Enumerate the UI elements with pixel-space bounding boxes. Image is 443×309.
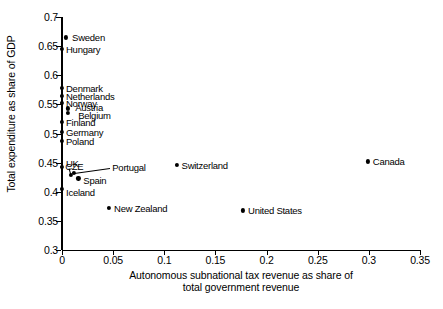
x-tick-labels: 00.050.10.150.20.250.30.35 xyxy=(0,254,443,270)
y-tick-label: 0.55 xyxy=(38,98,58,110)
data-point-label: Poland xyxy=(66,136,94,147)
x-tick-label: 0.3 xyxy=(362,254,376,266)
data-point-label: Spain xyxy=(83,175,106,186)
y-tick-label: 0.65 xyxy=(38,40,58,52)
y-tick-label: 0.4 xyxy=(44,186,58,198)
x-axis-title-line2: total government revenue xyxy=(62,281,420,293)
data-point-label: Hungary xyxy=(66,44,100,55)
data-point-label: Sweden xyxy=(72,32,105,43)
x-axis-title: Autonomous subnational tax revenue as sh… xyxy=(62,269,420,293)
y-tick-label: 0.6 xyxy=(44,69,58,81)
x-tick-label: 0.2 xyxy=(260,254,274,266)
data-point-label: Switzerland xyxy=(182,159,228,170)
data-point-label: Iceland xyxy=(66,186,95,197)
x-tick-label: 0.35 xyxy=(410,254,430,266)
x-tick-label: 0.15 xyxy=(206,254,226,266)
x-axis-title-line1: Autonomous subnational tax revenue as sh… xyxy=(62,269,420,281)
scatter-chart: 0.30.350.40.450.50.550.60.650.7 00.050.1… xyxy=(0,0,443,309)
data-point-label: New Zealand xyxy=(114,203,167,214)
y-tick-label: 0.5 xyxy=(44,128,58,140)
data-point-label: Canada xyxy=(373,156,405,167)
x-tick-label: 0.25 xyxy=(308,254,328,266)
x-tick-label: 0.05 xyxy=(103,254,123,266)
y-tick-label: 0.45 xyxy=(38,157,58,169)
x-tick-label: 0.1 xyxy=(157,254,171,266)
y-axis-title: Total expenditure as share of GDP xyxy=(5,19,17,209)
y-tick-label: 0.35 xyxy=(38,215,58,227)
data-point-label: CZE xyxy=(65,160,83,171)
x-tick-label: 0 xyxy=(59,254,65,266)
y-tick-label: 0.7 xyxy=(44,11,58,23)
plot-area xyxy=(62,17,420,250)
data-point-label: United States xyxy=(248,205,302,216)
data-point-label: Portugal xyxy=(112,162,145,173)
